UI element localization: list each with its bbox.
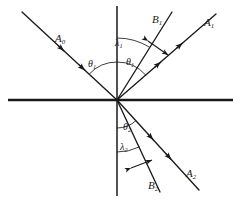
wavelength-label-lambda2: λ2 [120,142,128,153]
ray-label-a0: A0 [55,33,65,46]
ray-arrowhead [177,43,182,48]
diagram-canvas [0,0,241,201]
ray-label-b2: B2 [148,180,158,193]
ray-arrowhead [80,65,85,70]
optics-ray-diagram: A0A1B1A2B2θ1θ1θ2λ1λ2 [0,0,241,201]
angle-label-theta1-incident: θ1 [88,59,96,70]
angle-label-theta1-reflected: θ1 [126,57,134,68]
ray-arrowhead [59,46,64,51]
ray-label-b1: B1 [152,14,162,27]
wavelength-spacing-arrow-1 [148,41,168,55]
ray-label-a1: A1 [204,17,214,30]
angle-label-theta2-refracted: θ2 [123,122,131,133]
ray-arrowhead [148,134,153,139]
ray-a0 [22,12,117,100]
axes-group [8,6,233,196]
ray-label-a2: A2 [186,168,196,181]
wavelength-label-lambda1: λ1 [115,38,123,49]
ray-arrowhead [166,154,171,159]
ray-arrowhead [155,62,160,67]
